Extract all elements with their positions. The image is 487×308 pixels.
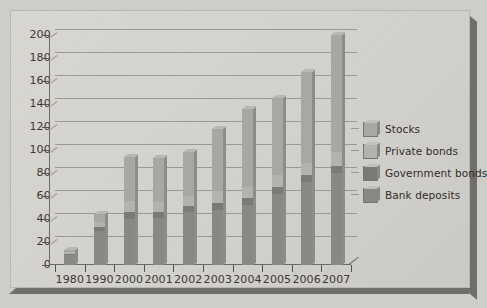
bar-segment-private-bonds xyxy=(301,163,312,176)
bar-segment-stocks xyxy=(212,129,223,191)
bar-2005[interactable] xyxy=(272,98,283,265)
legend-swatch-side-face xyxy=(377,164,380,179)
bar-side-face xyxy=(105,212,108,265)
chart-legend: StocksPrivate bondsGovernment bondsBank … xyxy=(363,119,483,207)
gridline-depth-connector xyxy=(50,170,57,176)
bar-side-face xyxy=(164,156,167,265)
bar-side-face xyxy=(75,248,78,265)
bar-1990[interactable] xyxy=(94,214,105,265)
x-axis-tick xyxy=(114,265,115,272)
legend-item-private-bonds[interactable]: Private bonds xyxy=(363,141,483,161)
bar-segment-private-bonds xyxy=(124,201,135,213)
bar-segment-government-bonds xyxy=(64,254,75,255)
bar-segment-bank-deposits xyxy=(153,218,164,265)
bar-segment-private-bonds xyxy=(242,187,253,199)
bar-segment-bank-deposits xyxy=(64,255,75,265)
bar-segment-bank-deposits xyxy=(272,194,283,265)
bar-segment-government-bonds xyxy=(272,187,283,194)
bar-segment-stocks xyxy=(242,109,253,187)
legend-item-bank-deposits[interactable]: Bank deposits xyxy=(363,185,483,205)
bar-side-face xyxy=(342,33,345,265)
legend-label: Government bonds xyxy=(385,167,487,179)
bar-2000[interactable] xyxy=(124,157,135,265)
bar-2001[interactable] xyxy=(153,158,164,265)
bar-segment-government-bonds xyxy=(94,227,105,230)
bar-segment-bank-deposits xyxy=(124,219,135,265)
gridline xyxy=(55,29,357,30)
x-axis-label-2004: 2004 xyxy=(232,273,262,286)
bar-segment-bank-deposits xyxy=(94,231,105,266)
gridline-depth-connector xyxy=(50,124,57,130)
legend-swatch-side-face xyxy=(377,120,380,135)
legend-swatch-side-face xyxy=(377,142,380,157)
x-axis-label-2006: 2006 xyxy=(292,273,322,286)
bar-side-face xyxy=(312,69,315,265)
legend-swatch-side-face xyxy=(377,186,380,201)
legend-item-government-bonds[interactable]: Government bonds xyxy=(363,163,483,183)
x-axis-tick xyxy=(292,265,293,272)
x-axis-tick xyxy=(85,265,86,272)
bar-segment-stocks xyxy=(183,152,194,196)
x-axis-label-2000: 2000 xyxy=(114,273,144,286)
x-axis-label-1980: 1980 xyxy=(55,273,85,286)
bar-2006[interactable] xyxy=(301,72,312,265)
y-axis-tick xyxy=(42,150,50,151)
bar-segment-stocks xyxy=(331,35,342,152)
x-axis-depth-line xyxy=(349,257,359,265)
legend-swatch xyxy=(363,166,378,181)
bar-segment-stocks xyxy=(94,214,105,222)
bar-side-face xyxy=(253,106,256,265)
gridline-depth-connector xyxy=(50,101,57,107)
legend-gridline-stub xyxy=(351,128,359,129)
x-axis-label-2001: 2001 xyxy=(144,273,174,286)
plot-area xyxy=(55,35,351,265)
gridline xyxy=(55,52,357,53)
gridline-depth-connector xyxy=(50,55,57,61)
x-axis-ticks xyxy=(49,265,351,273)
bar-2002[interactable] xyxy=(183,152,194,265)
bar-2004[interactable] xyxy=(242,109,253,265)
x-axis-label-2005: 2005 xyxy=(262,273,292,286)
bar-segment-government-bonds xyxy=(331,166,342,173)
bar-segment-bank-deposits xyxy=(301,182,312,265)
x-axis-label-2003: 2003 xyxy=(203,273,233,286)
bar-segment-government-bonds xyxy=(301,175,312,182)
legend-item-stocks[interactable]: Stocks xyxy=(363,119,483,139)
bar-segment-private-bonds xyxy=(331,152,342,166)
gridline-depth-connector xyxy=(50,216,57,222)
bar-segment-stocks xyxy=(153,158,164,202)
y-axis-tick xyxy=(42,219,50,220)
gridline-depth-connector xyxy=(50,147,57,153)
bar-2003[interactable] xyxy=(212,129,223,265)
gridline-depth-connector xyxy=(50,193,57,199)
x-axis-tick xyxy=(55,265,56,272)
x-axis-tick xyxy=(144,265,145,272)
y-axis-tick xyxy=(42,173,50,174)
bar-segment-private-bonds xyxy=(153,202,164,212)
legend-gridline-stub xyxy=(351,150,359,151)
bar-segment-stocks xyxy=(64,250,75,252)
gridline-depth-connector xyxy=(50,32,57,38)
legend-gridline-stub xyxy=(351,194,359,195)
bar-segment-private-bonds xyxy=(272,175,283,187)
bar-segment-government-bonds xyxy=(124,212,135,219)
bar-side-face xyxy=(135,155,138,265)
x-axis-tick xyxy=(203,265,204,272)
bar-side-face xyxy=(283,96,286,265)
gridline-depth-connector xyxy=(50,239,57,245)
bar-1980[interactable] xyxy=(64,250,75,265)
bar-segment-bank-deposits xyxy=(183,212,194,265)
x-axis-labels: 1980199020002001200220032004200520062007 xyxy=(41,273,361,291)
bar-segment-private-bonds xyxy=(183,196,194,206)
bar-side-face xyxy=(223,127,226,265)
bar-2007[interactable] xyxy=(331,35,342,265)
legend-label: Stocks xyxy=(385,123,420,135)
bar-segment-bank-deposits xyxy=(212,210,223,265)
bar-side-face xyxy=(194,150,197,265)
y-axis-tick xyxy=(42,104,50,105)
bar-segment-private-bonds xyxy=(212,191,223,203)
bar-segment-private-bonds xyxy=(64,252,75,253)
legend-swatch xyxy=(363,144,378,159)
bar-segment-government-bonds xyxy=(153,212,164,218)
